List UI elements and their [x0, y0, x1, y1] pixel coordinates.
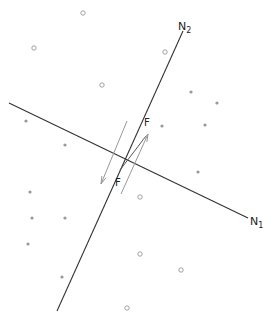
force-arrows [101, 121, 148, 194]
labels: N1N2FF [115, 20, 263, 230]
filled-point-icon [24, 119, 27, 122]
filled-point-icon [189, 90, 192, 93]
filled-point-icon [63, 216, 66, 219]
filled-point-icon [215, 101, 218, 104]
filled-point-icon [196, 170, 199, 173]
open-point-icon [138, 252, 142, 256]
nodal-planes [9, 31, 248, 311]
open-point-icon [125, 306, 129, 310]
open-point-icon [32, 46, 36, 50]
filled-point-icon [26, 242, 29, 245]
filled-point-icon [63, 143, 66, 146]
axis-n2-label: N2 [178, 20, 191, 35]
open-point-icon [138, 195, 142, 199]
filled-point-icon [60, 275, 63, 278]
axis-n2-line [57, 31, 183, 311]
axis-n1-line [9, 103, 248, 218]
open-point-icon [100, 83, 104, 87]
axis-n1-label: N1 [250, 215, 263, 230]
force-up-label: F [144, 117, 150, 128]
open-point-icon [163, 50, 167, 54]
filled-point-icon [203, 123, 206, 126]
diagram-canvas: N1N2FF [0, 0, 274, 317]
open-point-icon [179, 268, 183, 272]
data-points [24, 11, 218, 310]
filled-point-icon [160, 124, 163, 127]
force-down-shaft [101, 121, 127, 184]
open-point-icon [81, 11, 85, 15]
filled-point-icon [28, 190, 31, 193]
force-down-label: F [115, 177, 121, 188]
filled-point-icon [30, 216, 33, 219]
